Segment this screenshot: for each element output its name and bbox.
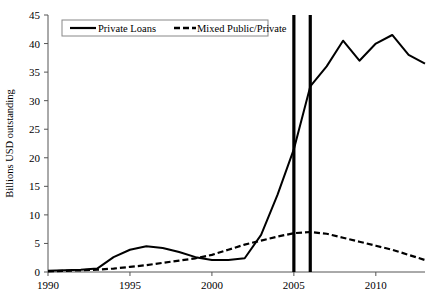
y-axis-tick-label: 0	[35, 266, 41, 278]
chart-legend: Private LoansMixed Public/Private	[62, 20, 287, 36]
y-axis-tick-label: 15	[29, 180, 41, 192]
chart-background	[0, 0, 434, 299]
y-axis-tick-label: 45	[29, 9, 41, 21]
y-axis-label: Billions USD outstanding	[4, 88, 15, 197]
y-axis-tick-label: 40	[29, 38, 41, 50]
legend-label-private-loans: Private Loans	[98, 23, 156, 34]
y-axis-tick-label: 25	[29, 123, 41, 135]
line-chart: 051015202530354045 19901995200020052010 …	[0, 0, 434, 299]
y-axis-tick-label: 10	[29, 209, 41, 221]
x-axis-tick-label: 1995	[119, 279, 142, 291]
legend-label-mixed-public-private: Mixed Public/Private	[197, 23, 287, 34]
x-axis-tick-label: 2010	[365, 279, 388, 291]
x-axis-tick-label: 1990	[37, 279, 60, 291]
y-axis-tick-label: 20	[29, 152, 41, 164]
y-axis-title: Billions USD outstanding	[4, 88, 15, 197]
y-axis-tick-label: 5	[35, 237, 41, 249]
y-axis-tick-label: 35	[29, 66, 41, 78]
x-axis-tick-label: 2000	[201, 279, 224, 291]
chart-container: 051015202530354045 19901995200020052010 …	[0, 0, 434, 299]
y-axis-tick-label: 30	[29, 95, 41, 107]
x-axis-tick-label: 2005	[283, 279, 306, 291]
